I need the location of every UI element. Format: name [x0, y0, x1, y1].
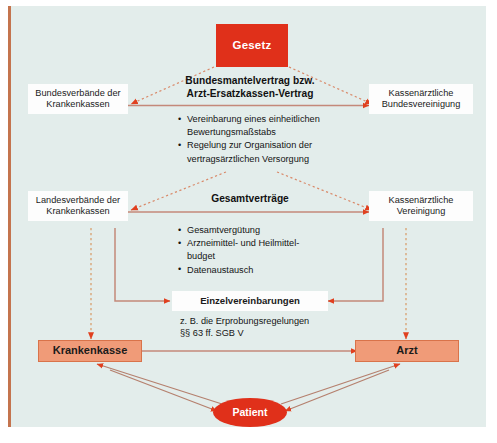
node-arzt-label: Arzt — [396, 344, 417, 357]
node-einzelvereinbarungen[interactable]: Einzelvereinbarungen — [172, 291, 328, 311]
bullet-item: Gesamtvergütung — [178, 224, 358, 236]
node-kbv-line2: Bundesvereinigung — [382, 99, 461, 110]
node-kv-line1: Kassenärztliche — [389, 195, 454, 206]
connector-krankenkasse-to-patient — [110, 370, 217, 411]
bullet-item: Arzneimittel- und Heilmittel- — [178, 237, 358, 249]
section-bundesmantelvertrag-heading: Bundesmantelvertrag bzw. Arzt-Ersatzkass… — [150, 74, 350, 100]
node-kv-line2: Vereinigung — [397, 206, 446, 217]
section-gesamtvertraege-heading: Gesamtverträge — [150, 192, 350, 205]
bullet-item-continuation: Bewertungsmaßstabs — [178, 126, 358, 138]
node-bundesverbaende-line2: Krankenkassen — [46, 99, 109, 110]
einzelvereinbarungen-note: z. B. die Erprobungsregelungen §§ 63 ff.… — [180, 315, 370, 340]
connector-patient-to-krankenkasse — [97, 364, 222, 404]
bullet-item: Regelung zur Organisation der — [178, 139, 358, 151]
node-landesverbaende-der-krankenkassen[interactable]: Landesverbände der Krankenkassen — [28, 191, 128, 221]
node-kassenaerztliche-vereinigung[interactable]: Kassenärztliche Vereinigung — [369, 191, 473, 221]
node-landesverbaende-line1: Landesverbände der — [36, 195, 120, 206]
bullet-item: Vereinbarung eines einheitlichen — [178, 113, 358, 125]
section-gesamtvertraege-bullets: Gesamtvergütung Arzneimittel- und Heilmi… — [178, 224, 358, 277]
connector-landesverbaende-to-einzelvereinbarungen — [115, 228, 170, 301]
node-arzt[interactable]: Arzt — [355, 340, 459, 362]
bundesmantelvertrag-heading-line1: Bundesmantelvertrag bzw. — [150, 74, 350, 87]
connector-arzt-to-patient — [285, 370, 389, 411]
bullet-item-continuation: budget — [178, 250, 358, 262]
bullet-item-continuation: vertragsärztlichen Versorgung — [178, 153, 358, 165]
einzel-note-line1: z. B. die Erprobungsregelungen — [180, 315, 370, 327]
einzel-note-line2: §§ 63 ff. SGB V — [180, 327, 370, 339]
node-patient-label: Patient — [232, 406, 267, 419]
node-patient[interactable]: Patient — [213, 398, 287, 427]
connector-patient-to-arzt — [281, 364, 400, 404]
diagram-canvas: Gesetz Bundesverbände der Krankenkassen … — [0, 0, 497, 443]
node-krankenkasse[interactable]: Krankenkasse — [38, 340, 142, 362]
node-landesverbaende-line2: Krankenkassen — [46, 206, 109, 217]
bundesmantelvertrag-heading-line2: Arzt-Ersatzkassen-Vertrag — [150, 87, 350, 100]
section-bundesmantelvertrag-bullets: Vereinbarung eines einheitlichen Bewertu… — [178, 113, 358, 166]
node-kassenaerztliche-bundesvereinigung[interactable]: Kassenärztliche Bundesvereinigung — [369, 84, 473, 114]
node-einzelvereinbarungen-label: Einzelvereinbarungen — [200, 295, 300, 307]
node-krankenkasse-label: Krankenkasse — [53, 344, 128, 357]
bullet-item: Datenaustausch — [178, 264, 358, 276]
node-bundesverbaende-line1: Bundesverbände der — [35, 88, 120, 99]
node-kbv-line1: Kassenärztliche — [389, 88, 454, 99]
node-gesetz[interactable]: Gesetz — [216, 24, 288, 67]
gesamtvertraege-heading-line1: Gesamtverträge — [150, 192, 350, 205]
node-gesetz-label: Gesetz — [233, 38, 272, 52]
node-bundesverbaende-der-krankenkassen[interactable]: Bundesverbände der Krankenkassen — [28, 84, 128, 114]
